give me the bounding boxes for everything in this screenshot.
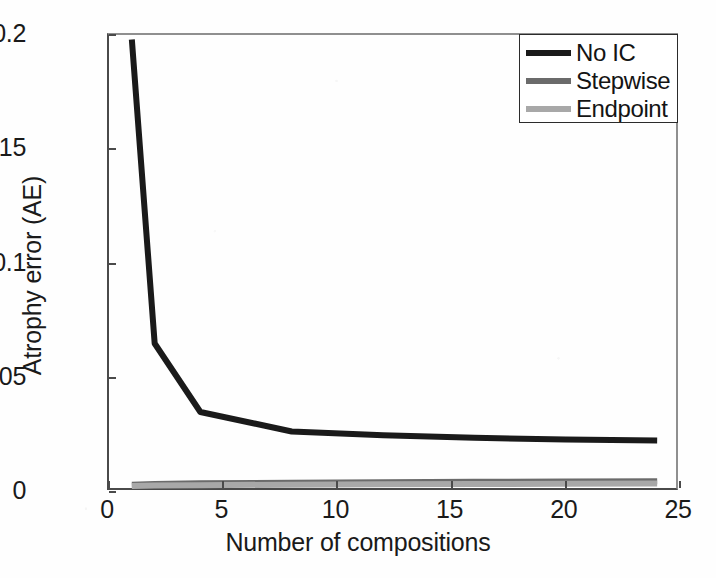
legend-item[interactable]: Endpoint (520, 95, 677, 123)
y-tick-mark (109, 491, 116, 493)
legend-item-label: No IC (576, 41, 635, 65)
legend-item-label: Stepwise (576, 69, 670, 93)
x-tick-mark (451, 481, 453, 488)
legend-item[interactable]: Stepwise (520, 67, 677, 95)
x-tick-label: 15 (436, 495, 463, 524)
ghost-caption (0, 562, 716, 576)
x-tick-mark (108, 481, 110, 488)
x-tick-mark (565, 481, 567, 488)
x-tick-mark (679, 481, 681, 488)
legend-item[interactable]: No IC (520, 39, 677, 67)
y-tick-mark (109, 148, 116, 150)
x-tick-mark (336, 481, 338, 488)
y-tick-label: 0 (12, 476, 26, 505)
y-tick-label: 0.1 (0, 247, 26, 276)
y-tick-label: 0.05 (0, 361, 26, 390)
x-tick-label: 20 (550, 495, 577, 524)
x-tick-label: 0 (100, 495, 114, 524)
legend-line-swatch (526, 50, 571, 56)
y-tick-label: 0.15 (0, 133, 26, 162)
legend-line-swatch (526, 106, 571, 112)
legend-line-swatch (526, 78, 571, 84)
y-tick-mark (109, 263, 116, 265)
x-tick-label: 25 (664, 495, 691, 524)
legend-box: No ICStepwiseEndpoint (519, 34, 678, 123)
legend-item-label: Endpoint (576, 97, 668, 121)
series-line (132, 484, 657, 487)
y-tick-mark (109, 34, 116, 36)
y-tick-mark (109, 377, 116, 379)
y-tick-label: 0.2 (0, 19, 26, 48)
figure-canvas: Atrophy error (AE) 00.050.10.150.2 05101… (0, 0, 716, 578)
x-tick-mark (222, 481, 224, 488)
x-tick-label: 5 (214, 495, 228, 524)
x-axis-title: Number of compositions (0, 528, 716, 557)
x-tick-label: 10 (322, 495, 349, 524)
